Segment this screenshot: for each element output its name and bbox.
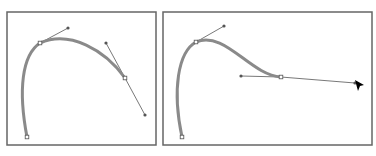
panel-frame xyxy=(7,12,156,145)
left-panel xyxy=(7,12,156,145)
anchor-point[interactable] xyxy=(123,76,127,80)
handle-point[interactable] xyxy=(104,41,107,44)
anchor-point[interactable] xyxy=(279,75,283,79)
anchor-point[interactable] xyxy=(180,135,184,139)
panel-frame xyxy=(163,12,372,145)
right-panel xyxy=(163,12,372,145)
handle-point[interactable] xyxy=(239,74,242,77)
anchor-point[interactable] xyxy=(38,41,42,45)
handle-point[interactable] xyxy=(222,24,225,27)
handle-point[interactable] xyxy=(143,113,146,116)
bezier-figure xyxy=(0,0,376,156)
anchor-point[interactable] xyxy=(194,40,198,44)
anchor-point[interactable] xyxy=(25,135,29,139)
handle-point[interactable] xyxy=(66,26,69,29)
